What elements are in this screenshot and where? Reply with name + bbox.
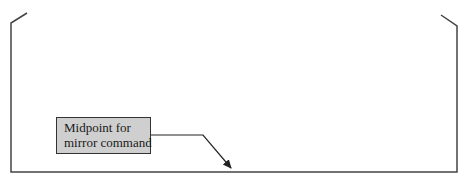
leader-line: [151, 135, 231, 168]
callout-line-2: mirror command: [64, 135, 152, 150]
midpoint-callout-box: Midpoint for mirror command: [56, 117, 151, 154]
mirror-profile-diagram: [0, 0, 467, 185]
callout-line-1: Midpoint for: [64, 120, 131, 135]
callout-label: Midpoint for mirror command: [64, 120, 152, 150]
